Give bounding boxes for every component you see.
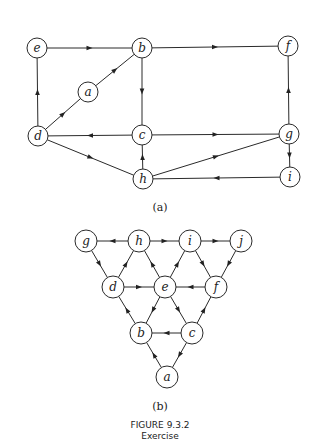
node-label: d <box>109 280 117 294</box>
edge-d-to-h <box>118 251 133 278</box>
edge-f-to-e <box>176 285 205 290</box>
arrowhead-icon <box>123 261 128 267</box>
arrowhead-icon <box>174 261 179 267</box>
edge-e-to-b <box>47 46 132 51</box>
node-b: b <box>130 322 152 344</box>
edge-c-to-d <box>48 133 132 138</box>
arrowhead-icon <box>87 46 93 51</box>
arrowhead-icon <box>213 239 219 244</box>
node-e: e <box>154 276 176 298</box>
arrowhead-icon <box>213 155 219 159</box>
arrowhead-icon <box>188 285 194 290</box>
figure-title: FIGURE 9.3.2 <box>0 420 320 430</box>
arrowhead-icon <box>110 239 116 244</box>
arrowhead-icon <box>287 152 292 158</box>
node-label: g <box>285 127 293 141</box>
node-b: b <box>132 38 152 58</box>
edge-b-to-f <box>152 45 278 50</box>
node-d: d <box>28 126 48 146</box>
arrowhead-icon <box>87 154 93 158</box>
arrowhead-icon <box>153 352 158 358</box>
node-label: h <box>135 234 143 248</box>
edge-h-to-c <box>140 145 145 169</box>
edge-e-to-i <box>170 251 184 278</box>
node-a: a <box>78 82 98 102</box>
edge-a-to-b <box>147 342 162 367</box>
edge-e-to-c <box>171 296 187 323</box>
node-h: h <box>133 169 153 189</box>
node-i: i <box>280 167 300 187</box>
edge-e-to-h <box>144 251 159 278</box>
node-f: f <box>278 36 298 56</box>
subfigure-label: (a) <box>152 201 167 214</box>
arrowhead-icon <box>178 351 183 357</box>
edge-i-to-h <box>153 176 280 181</box>
node-label: d <box>34 129 42 143</box>
edge-d-to-a <box>46 99 81 130</box>
edge-d-to-h <box>47 140 133 175</box>
graph-b: ghijdefbca(b) <box>75 230 252 413</box>
arrowhead-icon <box>151 261 156 267</box>
node-a: a <box>156 366 178 388</box>
node-e: e <box>27 38 47 58</box>
node-label: c <box>189 326 196 340</box>
arrowhead-icon <box>214 176 220 181</box>
edge-g-to-d <box>92 250 108 277</box>
node-label: g <box>82 234 90 248</box>
node-label: c <box>139 128 146 142</box>
arrowhead-icon <box>175 306 180 312</box>
arrowhead-icon <box>212 45 218 50</box>
edge-a-to-b <box>96 54 134 85</box>
subfigure-label: (b) <box>152 400 168 413</box>
node-j: j <box>230 230 252 252</box>
edge-d-to-e <box>35 58 40 126</box>
node-label: a <box>84 85 91 99</box>
node-label: a <box>163 370 170 384</box>
edge-g-to-f <box>286 56 291 124</box>
arrowhead-icon <box>201 307 206 313</box>
node-g: g <box>75 230 97 252</box>
node-d: d <box>102 276 124 298</box>
figure-subtitle: Exercise <box>0 431 320 441</box>
edge-c-to-f <box>197 297 211 323</box>
node-label: b <box>138 41 146 55</box>
arrowhead-icon <box>96 260 101 266</box>
arrowhead-icon <box>227 260 232 266</box>
arrowhead-icon <box>140 89 145 95</box>
node-label: b <box>137 326 145 340</box>
edge-e-to-b <box>146 297 160 323</box>
edge-c-to-a <box>172 343 186 368</box>
edge-c-to-b <box>152 331 181 336</box>
edge-g-to-i <box>287 144 292 167</box>
edge-c-to-g <box>152 132 279 137</box>
node-f: f <box>205 276 227 298</box>
node-i: i <box>179 230 201 252</box>
figure-diagram: ebfadcghi(a) ghijdefbca(b) <box>0 0 320 445</box>
edge-h-to-g <box>153 137 280 176</box>
edge-b-to-d <box>119 296 136 323</box>
edge-d-to-e <box>124 285 154 290</box>
node-h: h <box>128 230 150 252</box>
arrowhead-icon <box>136 285 142 290</box>
arrowhead-icon <box>286 87 291 93</box>
node-label: i <box>188 234 192 248</box>
node-label: e <box>33 41 40 55</box>
arrowhead-icon <box>35 89 40 95</box>
edge-h-to-g <box>97 239 128 244</box>
node-c: c <box>181 322 203 344</box>
arrowhead-icon <box>140 154 145 160</box>
node-c: c <box>132 125 152 145</box>
arrowhead-icon <box>125 307 130 313</box>
edge-i-to-f <box>195 251 210 278</box>
node-label: h <box>139 172 147 186</box>
node-label: e <box>161 280 168 294</box>
edge-h-to-i <box>150 239 179 244</box>
arrowhead-icon <box>164 331 170 336</box>
arrowhead-icon <box>213 132 219 137</box>
node-g: g <box>279 124 299 144</box>
edge-b-to-c <box>140 58 145 125</box>
node-label: i <box>288 170 292 184</box>
arrowhead-icon <box>87 133 93 138</box>
graph-a: ebfadcghi(a) <box>27 36 300 214</box>
edge-j-to-f <box>221 251 235 278</box>
